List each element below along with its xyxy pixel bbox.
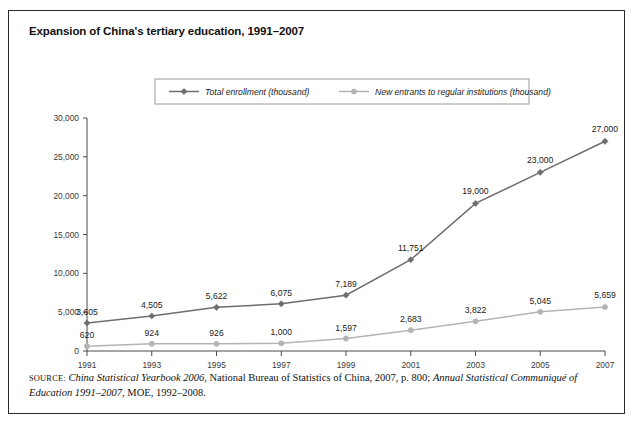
data-point-marker [343, 336, 348, 341]
data-point-label: 1,597 [335, 323, 357, 333]
data-point-label: 6,075 [270, 288, 292, 298]
data-point-marker [279, 341, 284, 346]
y-axis-tick-label: 20,000 [53, 191, 79, 201]
data-point-marker [84, 320, 90, 326]
legend-item-label: New entrants to regular institutions (th… [375, 87, 551, 97]
chart-axes: 05,00010,00015,00020,00025,00030,0001991… [53, 113, 614, 370]
data-point-marker [602, 304, 607, 309]
data-point-marker [537, 169, 543, 175]
data-point-label: 3,605 [76, 307, 98, 317]
chart-legend: Total enrollment (thousand)New entrants … [155, 79, 551, 104]
x-axis-tick-label: 1993 [142, 360, 161, 370]
y-axis-tick-label: 0 [74, 346, 79, 356]
data-point-label: 1,000 [270, 327, 292, 337]
source-years: 1991–2007 [75, 387, 122, 398]
chart-series: 3,6054,5055,6226,0757,18911,75119,00023,… [76, 124, 618, 348]
data-point-label: 5,045 [529, 296, 551, 306]
series-2: 6209249261,0001,5972,6833,8225,0455,659 [80, 290, 616, 349]
data-point-marker [343, 292, 349, 298]
x-axis-tick-label: 1995 [207, 360, 226, 370]
data-point-label: 4,505 [141, 300, 163, 310]
data-point-label: 27,000 [592, 124, 619, 134]
source-note: source: China Statistical Yearbook 2006,… [29, 370, 609, 400]
figure-panel: Expansion of China's tertiary education,… [8, 10, 625, 414]
data-point-label: 3,822 [465, 305, 487, 315]
data-point-marker [149, 341, 154, 346]
x-axis-tick-label: 1991 [78, 360, 97, 370]
source-text-a: , National Bureau of Statistics of China… [204, 372, 433, 383]
data-point-marker [408, 328, 413, 333]
legend-item-label: Total enrollment (thousand) [205, 87, 309, 97]
data-point-label: 924 [145, 328, 160, 338]
data-point-label: 19,000 [462, 186, 489, 196]
data-point-marker [351, 89, 356, 94]
x-axis-tick-label: 2007 [596, 360, 615, 370]
y-axis-tick-label: 15,000 [53, 230, 79, 240]
data-point-marker [84, 344, 89, 349]
data-point-marker [473, 319, 478, 324]
data-point-label: 2,683 [400, 314, 422, 324]
data-point-label: 5,659 [594, 290, 616, 300]
x-axis-tick-label: 2003 [466, 360, 485, 370]
x-axis-tick-label: 2001 [401, 360, 420, 370]
data-point-marker [213, 304, 219, 310]
source-text-b: , MOE, 1992–2008. [122, 387, 206, 398]
data-point-label: 620 [80, 330, 95, 340]
data-point-label: 5,622 [206, 291, 228, 301]
source-label: source: [29, 374, 66, 383]
data-point-marker [214, 341, 219, 346]
line-chart: Total enrollment (thousand)New entrants … [9, 11, 626, 415]
x-axis-tick-label: 1997 [272, 360, 291, 370]
data-point-label: 7,189 [335, 279, 357, 289]
data-point-marker [602, 138, 608, 144]
x-axis-tick-label: 1999 [337, 360, 356, 370]
data-point-marker [538, 309, 543, 314]
data-point-marker [149, 313, 155, 319]
y-axis-tick-label: 10,000 [53, 268, 79, 278]
y-axis-tick-label: 30,000 [53, 113, 79, 123]
source-title-yearbook: China Statistical Yearbook 2006 [68, 372, 204, 383]
data-point-marker [278, 301, 284, 307]
data-point-label: 11,751 [398, 243, 424, 253]
y-axis-tick-label: 25,000 [53, 152, 79, 162]
x-axis-tick-label: 2005 [531, 360, 550, 370]
data-point-label: 23,000 [527, 155, 554, 165]
data-point-label: 926 [209, 328, 224, 338]
